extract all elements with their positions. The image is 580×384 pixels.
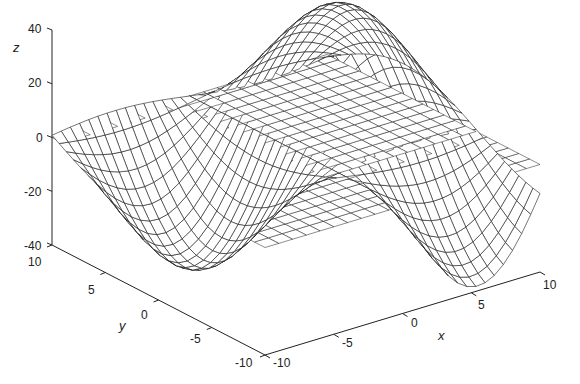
x-axis-label: x [438, 328, 445, 343]
y-tick-5: 5 [88, 283, 95, 297]
y-tick-neg5: -5 [190, 332, 201, 346]
z-tick-40: 40 [28, 22, 41, 36]
z-axis-label: z [13, 40, 20, 55]
z-tick-0: 0 [36, 131, 43, 145]
z-tick-neg40: -40 [24, 239, 41, 253]
x-tick-5: 5 [478, 298, 485, 312]
surface-plot [0, 0, 580, 384]
z-tick-neg20: -20 [24, 185, 41, 199]
y-axis-label: y [119, 318, 126, 333]
y-tick-0: 0 [141, 308, 148, 322]
surface-mesh [52, 2, 540, 286]
x-tick-neg10: -10 [273, 356, 290, 370]
x-tick-neg5: -5 [342, 336, 353, 350]
x-tick-0: 0 [411, 316, 418, 330]
y-tick-neg10: -10 [235, 356, 252, 370]
z-tick-20: 20 [28, 76, 41, 90]
x-tick-10: 10 [543, 278, 556, 292]
y-tick-10: 10 [28, 255, 41, 269]
